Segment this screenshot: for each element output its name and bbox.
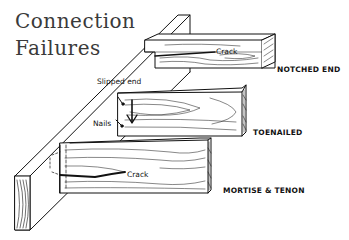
beam-toenailed: [116, 85, 246, 136]
label-slipped-end: Slipped end: [97, 78, 141, 86]
beam-notched-end: [145, 34, 275, 68]
beam-mortise-tenon: [50, 138, 211, 193]
label-mortise-crack: Crack: [127, 171, 148, 179]
title-line-1: Connection: [15, 11, 136, 31]
connection-failures-diagram: Connection Failures Crack NOTCHED END Sl…: [0, 0, 349, 240]
label-notched-crack: Crack: [216, 48, 237, 56]
title-line-2: Failures: [15, 38, 101, 58]
label-nails: Nails: [93, 120, 111, 128]
label-notched-end: NOTCHED END: [277, 66, 340, 74]
label-mortise-tenon: MORTISE & TENON: [223, 187, 305, 195]
label-toenailed: TOENAILED: [253, 129, 302, 137]
